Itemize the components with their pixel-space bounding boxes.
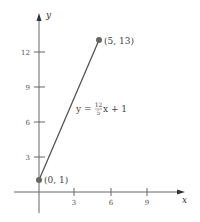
x-axis-label: x xyxy=(182,195,187,205)
equation-label: y = 12 5 x + 1 xyxy=(75,101,127,116)
y-tick-label: 9 xyxy=(26,84,30,92)
point-start xyxy=(36,177,42,183)
point-end-label: (5, 13) xyxy=(104,36,134,46)
x-tick-label: 6 xyxy=(109,199,114,207)
equation-numerator: 12 xyxy=(95,101,103,108)
x-tick-label: 9 xyxy=(145,199,149,207)
y-tick-label: 12 xyxy=(21,49,30,57)
equation-denominator: 5 xyxy=(97,109,101,116)
equation-rhs: x + 1 xyxy=(103,104,127,114)
x-tick-label: 3 xyxy=(72,199,76,207)
equation-lhs: y = xyxy=(75,104,92,114)
y-tick-label: 6 xyxy=(26,119,31,127)
y-axis-arrow-icon xyxy=(37,13,42,21)
y-tick-label: 3 xyxy=(26,154,30,162)
y-axis-label: y xyxy=(45,10,52,20)
x-axis-arrow-icon xyxy=(177,190,185,195)
line-chart: 3 6 9 3 6 9 12 y x (0, 1) (5, 13) y = 12… xyxy=(0,0,200,222)
point-start-label: (0, 1) xyxy=(44,175,68,185)
point-end xyxy=(96,37,102,43)
